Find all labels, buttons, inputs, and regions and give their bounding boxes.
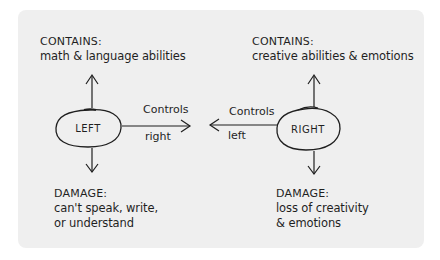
right-node-label: RIGHT [291, 124, 325, 135]
right-up-arrow-icon [308, 75, 320, 107]
left-damage-heading: DAMAGE: [54, 186, 158, 201]
left-node: LEFT [56, 109, 121, 147]
edge-left-right-label-top: Controls [143, 103, 189, 116]
right-down-arrow-icon [308, 151, 320, 174]
right-node: RIGHT [277, 107, 340, 150]
edge-left-right-label-bottom: right [145, 130, 171, 143]
edge-right-left-label-top: Controls [229, 105, 275, 118]
right-contains-heading: CONTAINS: [252, 34, 414, 49]
right-damage-line-2: & emotions [276, 216, 369, 231]
right-contains-text: creative abilities & emotions [252, 49, 414, 64]
edge-right-left-label-bottom: left [228, 129, 246, 142]
left-damage-line-1: can't speak, write, [54, 201, 158, 216]
left-node-label: LEFT [75, 123, 101, 134]
diagram-stage: LEFT RIGHT [0, 0, 440, 260]
left-contains-heading: CONTAINS: [40, 34, 186, 49]
left-damage-block: DAMAGE: can't speak, write, or understan… [54, 186, 158, 231]
left-contains-block: CONTAINS: math & language abilities [40, 34, 186, 64]
left-damage-line-2: or understand [54, 216, 158, 231]
right-contains-block: CONTAINS: creative abilities & emotions [252, 34, 414, 64]
right-damage-block: DAMAGE: loss of creativity & emotions [276, 186, 369, 231]
right-damage-line-1: loss of creativity [276, 201, 369, 216]
left-contains-text: math & language abilities [40, 49, 186, 64]
left-down-arrow-icon [86, 148, 98, 172]
right-damage-heading: DAMAGE: [276, 186, 369, 201]
left-up-arrow-icon [86, 75, 98, 108]
